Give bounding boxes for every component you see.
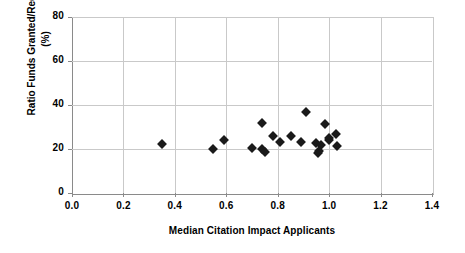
x-axis-tick xyxy=(226,193,227,197)
y-axis-tick xyxy=(68,105,72,106)
y-axis-tick xyxy=(68,61,72,62)
y-axis-tick xyxy=(68,17,72,18)
scatter-chart: 0.00.20.40.60.81.01.21.4 020406080 Ratio… xyxy=(0,0,465,253)
gridline-vertical xyxy=(278,17,279,193)
gridline-vertical xyxy=(226,17,227,193)
gridline-vertical xyxy=(123,17,124,193)
x-axis-tick xyxy=(381,193,382,197)
y-axis-title-line2: (%) xyxy=(40,0,56,129)
gridline-vertical xyxy=(175,17,176,193)
gridline-vertical xyxy=(381,17,382,193)
gridline-horizontal xyxy=(72,17,432,18)
gridline-horizontal xyxy=(72,105,432,106)
x-axis-tick xyxy=(432,193,433,197)
x-axis-title: Median Citation Impact Applicants xyxy=(72,225,432,236)
y-axis-title-units: (%) xyxy=(28,16,44,192)
x-axis-tick xyxy=(175,193,176,197)
x-axis-tick xyxy=(72,193,73,197)
x-axis-tick xyxy=(278,193,279,197)
x-tick-label: 1.4 xyxy=(402,200,462,211)
y-axis-tick xyxy=(68,149,72,150)
x-axis-tick xyxy=(329,193,330,197)
gridline-horizontal xyxy=(72,61,432,62)
x-axis-tick xyxy=(123,193,124,197)
gridline-vertical xyxy=(329,17,330,193)
